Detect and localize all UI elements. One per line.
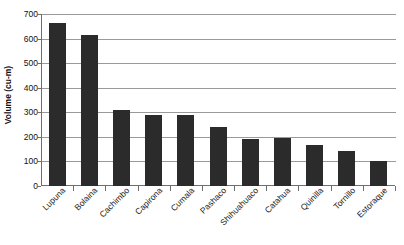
x-tick-label-text: Cumala [169,186,196,213]
bar [81,35,98,186]
x-tick-label-text: Pashaco [199,186,229,216]
x-tick-label-text: Capirona [133,186,164,217]
x-tick-label-text: Quinilla [298,186,324,212]
x-tick-label-text: Lupuna [41,186,67,212]
y-tick-label: 500 [12,59,38,68]
y-tick-label: 300 [12,108,38,117]
bars-layer [41,14,395,186]
x-tick-label-text: Bolaina [73,186,99,212]
bar [49,23,66,186]
x-axis-labels: LupunaBolainaCachimboCapironaCumalaPasha… [0,186,404,245]
y-tick-label: 400 [12,84,38,93]
bar-chart-figure: Volume (cu-m) 0100200300400500600700 Lup… [0,0,404,245]
bar [210,127,227,186]
x-tick-label-text: Cachimbo [98,186,131,219]
y-tick-label: 600 [12,35,38,44]
x-tick-label-text: Tornillo [332,186,357,211]
y-tick-label: 100 [12,157,38,166]
x-tick-label-text: Catahua [264,186,293,215]
x-tick-label-text: Estoraque [356,186,390,220]
y-tick-label: 700 [12,10,38,19]
y-tick-label: 200 [12,133,38,142]
